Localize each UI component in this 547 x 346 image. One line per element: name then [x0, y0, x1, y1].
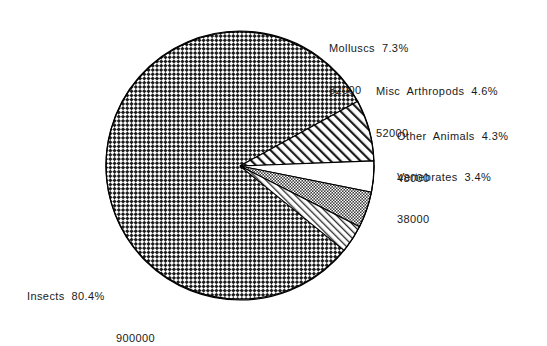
slice-label-misc-arthropods-percent: Misc Arthropods 4.6%: [376, 84, 498, 98]
slice-label-vertebrates-value: 38000: [397, 212, 491, 226]
slice-label-molluscs-percent: Molluscs 7.3%: [329, 41, 409, 55]
slice-label-vertebrates: Vertebrates 3.4% 38000: [397, 142, 491, 254]
slice-label-insects: Insects 80.4% 900000: [27, 261, 155, 346]
slice-label-other-animals-percent: Other Animals 4.3%: [397, 129, 508, 143]
slice-label-vertebrates-percent: Vertebrates 3.4%: [397, 170, 491, 184]
slice-label-insects-percent: Insects 80.4%: [27, 289, 155, 303]
slice-label-insects-value: 900000: [27, 331, 155, 345]
